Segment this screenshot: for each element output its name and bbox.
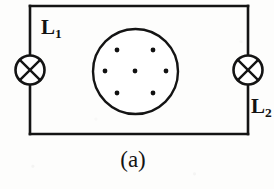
figure-container: L1 L2 (a)	[0, 0, 274, 189]
lamp-left-label: L1	[41, 17, 62, 40]
field-region	[93, 29, 178, 114]
field-dot	[151, 91, 156, 96]
lamp-left-label-subscript: 1	[55, 26, 62, 41]
lamp-right-symbol	[234, 56, 263, 85]
lamp-left-label-base: L	[41, 15, 55, 39]
lamp-left-symbol	[16, 56, 45, 85]
field-dot	[164, 69, 169, 74]
field-dot	[133, 69, 138, 74]
lamp-right-label: L2	[251, 96, 272, 119]
lamp-right-label-subscript: 2	[265, 105, 272, 120]
figure-caption: (a)	[0, 148, 266, 171]
field-dot	[103, 69, 108, 74]
field-dot	[151, 48, 156, 53]
field-dot	[115, 91, 120, 96]
field-dot	[115, 48, 120, 53]
lamp-right-label-base: L	[251, 94, 265, 118]
